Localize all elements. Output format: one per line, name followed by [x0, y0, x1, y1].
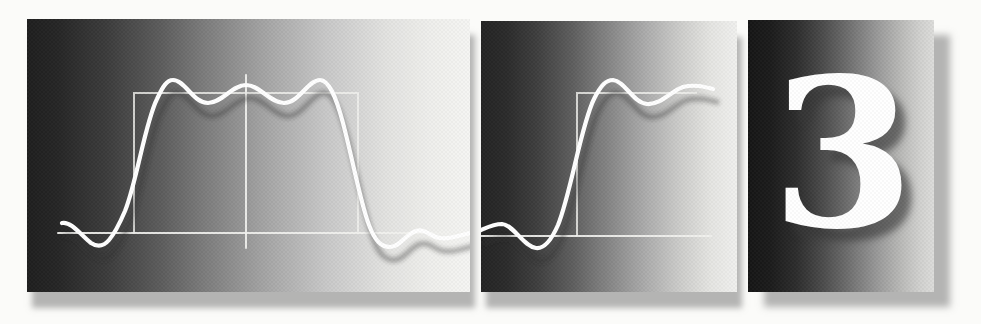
panel-fourier-sum-full-period	[27, 19, 470, 292]
waveform-plot-rising-edge	[481, 21, 737, 292]
panel-fourier-sum-rising-edge	[481, 21, 737, 292]
waveform-plot-full-period	[27, 19, 470, 292]
panel-chapter-number: 3	[748, 20, 934, 292]
page-background: 3	[0, 0, 981, 324]
chapter-number-numeral: 3	[771, 51, 914, 257]
